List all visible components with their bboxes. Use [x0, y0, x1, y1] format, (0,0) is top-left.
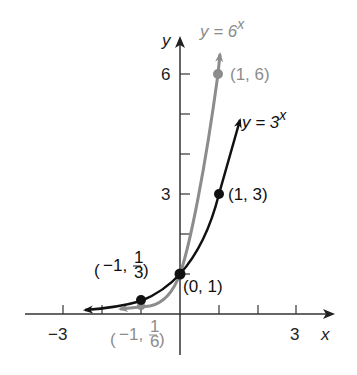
svg-text:−1,: −1,: [119, 325, 143, 344]
label-point-1-3: (1, 3): [228, 185, 268, 204]
tick-label-neg3: −3: [48, 325, 67, 344]
tick-label-x3: 3: [290, 325, 299, 344]
label-point-m1-sixth: ( −1, 1 6 ): [110, 317, 165, 351]
label-point-0-1: (0, 1): [183, 277, 223, 296]
label-point-m1-third: ( −1, 1 3 ): [94, 248, 149, 282]
tick-label-y3: 3: [161, 185, 170, 204]
point-1-3: [214, 189, 224, 199]
point-1-6: [213, 69, 223, 79]
svg-text:−1,: −1,: [103, 256, 127, 275]
label-point-1-6: (1, 6): [230, 65, 270, 84]
point-m1-third: [136, 295, 146, 305]
label-y-3x: y = 3x: [241, 107, 287, 132]
svg-text:): ): [159, 330, 165, 349]
y-axis-label: y: [161, 31, 172, 50]
x-axis-label: x: [320, 325, 330, 344]
svg-text:): ): [143, 261, 149, 280]
curve-3-to-x: [141, 120, 240, 301]
svg-text:(: (: [110, 330, 116, 349]
label-y-6x: y = 6x: [199, 16, 245, 41]
tick-label-y6: 6: [161, 65, 170, 84]
chart-canvas: −3 3 3 6 y x y = 6x y = 3x (1, 6) (1, 3)…: [0, 0, 357, 375]
svg-text:(: (: [94, 261, 100, 280]
